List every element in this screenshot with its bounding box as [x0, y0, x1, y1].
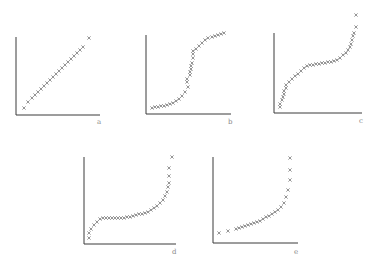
x-marker: [168, 102, 171, 105]
x-marker: [149, 208, 152, 211]
x-marker: [240, 225, 243, 228]
x-marker: [95, 220, 98, 223]
x-marker: [36, 90, 39, 93]
x-marker: [171, 101, 174, 104]
x-marker: [258, 219, 261, 222]
x-marker: [188, 70, 191, 73]
x-marker: [170, 155, 173, 158]
x-marker: [92, 223, 95, 226]
x-marker: [288, 156, 291, 159]
x-marker: [48, 78, 51, 81]
x-marker: [60, 66, 63, 69]
plot-b: b: [146, 31, 233, 126]
x-marker: [287, 80, 290, 83]
x-marker: [189, 67, 192, 70]
x-marker: [188, 73, 191, 76]
x-marker: [348, 45, 351, 48]
x-marker: [299, 69, 302, 72]
x-marker: [264, 215, 267, 218]
x-marker: [183, 90, 186, 93]
x-marker: [278, 105, 281, 108]
x-marker: [63, 63, 66, 66]
x-marker: [352, 31, 355, 34]
plot-a: a: [16, 36, 101, 126]
x-marker: [81, 45, 84, 48]
x-marker: [243, 224, 246, 227]
x-marker: [290, 77, 293, 80]
x-marker: [280, 98, 283, 101]
x-marker: [128, 215, 131, 218]
x-marker: [190, 61, 193, 64]
panel-label: e: [294, 248, 298, 256]
axes: [16, 37, 100, 115]
x-marker: [249, 222, 252, 225]
x-marker: [101, 216, 104, 219]
x-marker: [255, 220, 258, 223]
x-marker: [305, 64, 308, 67]
x-marker: [185, 77, 188, 80]
x-marker: [267, 214, 270, 217]
x-marker: [30, 96, 33, 99]
x-marker: [146, 210, 149, 213]
x-marker: [320, 61, 323, 64]
x-marker: [282, 89, 285, 92]
x-marker: [125, 215, 128, 218]
x-marker: [278, 102, 281, 105]
x-marker: [110, 216, 113, 219]
x-marker: [308, 63, 311, 66]
x-marker: [152, 206, 155, 209]
x-marker: [180, 94, 183, 97]
x-marker: [329, 60, 332, 63]
x-marker: [344, 51, 347, 54]
x-marker: [273, 210, 276, 213]
x-marker: [131, 214, 134, 217]
x-marker: [191, 52, 194, 55]
x-marker: [326, 60, 329, 63]
axes: [274, 33, 362, 113]
x-marker: [162, 104, 165, 107]
axes: [213, 157, 298, 243]
x-marker: [167, 166, 170, 169]
x-marker: [167, 174, 170, 177]
x-marker: [75, 51, 78, 54]
x-marker: [284, 83, 287, 86]
x-marker: [45, 81, 48, 84]
x-marker: [22, 106, 25, 109]
x-marker: [284, 86, 287, 89]
x-marker: [349, 42, 352, 45]
x-marker: [87, 36, 90, 39]
x-marker: [288, 178, 291, 181]
x-marker: [72, 54, 75, 57]
x-marker: [354, 25, 357, 28]
x-marker: [159, 104, 162, 107]
x-marker: [158, 201, 161, 204]
x-marker: [197, 44, 200, 47]
x-marker: [104, 216, 107, 219]
x-marker: [296, 72, 299, 75]
x-marker: [119, 216, 122, 219]
x-marker: [33, 93, 36, 96]
x-marker: [216, 33, 219, 36]
x-marker: [161, 198, 164, 201]
x-marker: [311, 63, 314, 66]
x-marker: [222, 31, 225, 34]
x-marker: [140, 212, 143, 215]
x-marker: [87, 231, 90, 234]
x-marker: [189, 64, 192, 67]
x-marker: [191, 49, 194, 52]
x-marker: [42, 84, 45, 87]
x-marker: [335, 58, 338, 61]
x-marker: [288, 168, 291, 171]
x-marker: [122, 216, 125, 219]
x-marker: [191, 56, 194, 59]
panel-label: a: [97, 118, 101, 126]
x-marker: [237, 226, 240, 229]
x-marker: [351, 34, 354, 37]
x-marker: [293, 74, 296, 77]
x-marker: [341, 53, 344, 56]
x-marker: [153, 105, 156, 108]
x-marker: [213, 34, 216, 37]
x-marker: [279, 205, 282, 208]
x-marker: [107, 216, 110, 219]
x-marker: [78, 48, 81, 51]
